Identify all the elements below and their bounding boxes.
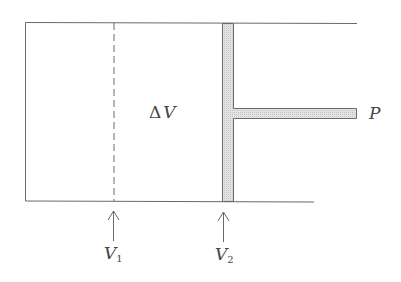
piston: [223, 24, 357, 202]
pressure-label: P: [368, 103, 381, 123]
cylinder-bottom-wall: [26, 201, 315, 202]
delta-v-label: ΔV: [149, 102, 177, 122]
piston-diagram: ΔV P V1 V2: [0, 0, 401, 282]
cylinder-top-wall: [26, 23, 358, 24]
piston-body: [223, 24, 357, 202]
v1-label: V1: [104, 243, 123, 264]
arrow-v1: [108, 211, 119, 241]
v2-label: V2: [215, 244, 234, 265]
arrow-v2: [218, 212, 229, 242]
